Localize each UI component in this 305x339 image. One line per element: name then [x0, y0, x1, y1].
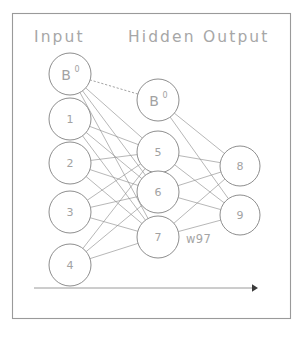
- node-input-4: 4: [49, 244, 91, 286]
- connection-line: [90, 243, 138, 258]
- bias-link-dotted: [90, 80, 138, 94]
- connection-line: [90, 80, 138, 94]
- node-input-3: 3: [49, 191, 91, 233]
- connection-line: [174, 179, 225, 223]
- node-input-bias: B0: [49, 53, 91, 95]
- connection-line: [90, 126, 139, 144]
- node-label: 9: [237, 209, 244, 222]
- header-label-hidden: Hidden: [128, 28, 196, 46]
- connection-line: [83, 136, 146, 220]
- connection-line: [175, 165, 224, 203]
- node-label: 2: [67, 157, 74, 170]
- connection-line: [87, 164, 140, 200]
- node-label: 3: [67, 206, 74, 219]
- connection-line: [90, 218, 138, 232]
- connection-line: [90, 197, 137, 208]
- network-nodes: B01234B056789: [49, 53, 260, 286]
- connection-line: [83, 91, 146, 175]
- flow-arrow-head: [252, 284, 258, 292]
- connection-line: [179, 156, 221, 163]
- connection-line: [178, 220, 220, 231]
- connection-line: [86, 88, 143, 138]
- network-diagram: Input Hidden Output B01234B056789 w97: [0, 0, 305, 339]
- connection-line: [178, 198, 221, 210]
- weight-label-w97: w97: [186, 232, 211, 246]
- connection-line: [90, 170, 138, 186]
- node-input-1: 1: [49, 98, 91, 140]
- node-label: B: [149, 93, 159, 109]
- node-superscript: 0: [74, 65, 79, 74]
- node-output-9: 9: [220, 195, 260, 235]
- node-label: 5: [155, 146, 162, 159]
- node-label: 6: [155, 186, 162, 199]
- node-label: B: [61, 67, 71, 83]
- header-label-output: Output: [203, 28, 269, 46]
- node-label: 8: [237, 160, 244, 173]
- node-hidden-7: 7: [137, 216, 179, 258]
- connection-line: [83, 169, 145, 249]
- node-hidden-bias: B0: [137, 79, 179, 121]
- node-hidden-5: 5: [137, 131, 179, 173]
- node-input-2: 2: [49, 142, 91, 184]
- node-hidden-6: 6: [137, 171, 179, 213]
- node-label: 7: [155, 231, 162, 244]
- node-label: 4: [67, 259, 74, 272]
- node-label: 1: [67, 113, 74, 126]
- connection-line: [170, 117, 228, 199]
- node-superscript: 0: [162, 91, 167, 100]
- header-label-input: Input: [34, 28, 85, 46]
- node-output-8: 8: [220, 146, 260, 186]
